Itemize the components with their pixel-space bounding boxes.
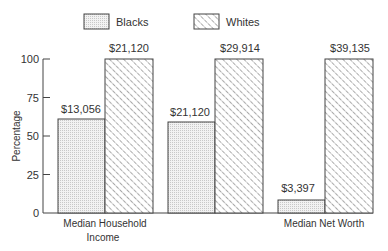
- value-label-blacks: $3,397: [281, 182, 315, 194]
- bar-blacks: [168, 122, 215, 213]
- y-tick-0: 0: [33, 207, 39, 219]
- chart: Blacks Whites 100 75 50 25 0 Percentage …: [0, 0, 388, 251]
- y-tick-50: 50: [27, 130, 39, 142]
- bar-blacks: [58, 119, 105, 213]
- y-axis: 100 75 50 25 0 Percentage: [11, 53, 50, 219]
- x-label: Median Net Worth: [284, 218, 364, 229]
- y-tick-100: 100: [21, 53, 39, 65]
- bar-whites: [215, 59, 263, 213]
- x-label: Median Household: [63, 218, 146, 229]
- value-label-blacks: $13,056: [61, 103, 101, 115]
- bar-whites: [325, 59, 373, 213]
- bar-blacks: [278, 200, 325, 213]
- value-label-whites: $39,135: [330, 42, 370, 54]
- legend: Blacks Whites: [84, 14, 260, 29]
- legend-swatch-whites: [194, 14, 219, 29]
- y-axis-label: Percentage: [11, 110, 22, 162]
- y-tick-25: 25: [27, 169, 39, 181]
- legend-swatch-blacks: [84, 14, 109, 29]
- legend-label-blacks: Blacks: [116, 16, 149, 28]
- value-label-whites: $29,914: [220, 42, 260, 54]
- value-label-whites: $21,120: [109, 42, 149, 54]
- y-tick-75: 75: [27, 92, 39, 104]
- bar-group-household-income: $13,056 $21,120 Median Household Income: [58, 42, 153, 243]
- x-label-line2: Income: [87, 232, 120, 243]
- legend-label-whites: Whites: [226, 16, 260, 28]
- value-label-blacks: $21,120: [170, 106, 210, 118]
- bar-group-2: $21,120 $29,914: [168, 42, 263, 213]
- bar-group-net-worth: $3,397 $39,135 Median Net Worth: [278, 42, 373, 229]
- bar-whites: [105, 59, 153, 213]
